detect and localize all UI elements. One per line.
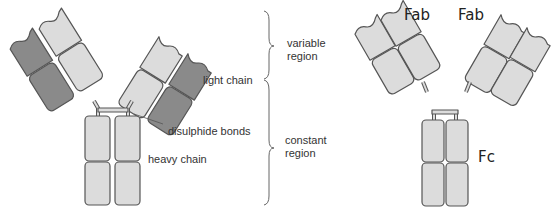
- fab-right-fragment: [464, 15, 553, 107]
- fc-left-lower-domain: [85, 162, 110, 205]
- fc-left-upper-domain: [85, 116, 110, 161]
- label-fc: Fc: [478, 148, 495, 166]
- label-fab-left: Fab: [404, 6, 430, 24]
- label-variable-region-line1: variable: [287, 37, 326, 49]
- fc-right-upper-domain: [115, 116, 140, 161]
- variable-region-brace: [264, 11, 274, 79]
- intact-antibody: [7, 8, 213, 205]
- label-variable-region-line2: region: [287, 50, 318, 62]
- label-heavy-chain: heavy chain: [148, 153, 207, 165]
- fragments: [352, 1, 552, 207]
- label-constant-region-line2: region: [285, 147, 316, 159]
- constant-region-brace: [264, 80, 274, 205]
- label-fab-right: Fab: [458, 6, 484, 24]
- label-disulphide-bonds: disulphide bonds: [168, 125, 251, 137]
- fc-right-lower-domain: [115, 162, 140, 205]
- fc-fragment: [422, 110, 468, 206]
- label-constant-region-line1: constant: [285, 134, 327, 146]
- disulphide-bridge: [98, 108, 128, 112]
- antibody-diagram: light chain disulphide bonds heavy chain…: [0, 0, 553, 215]
- label-light-chain: light chain: [203, 74, 253, 86]
